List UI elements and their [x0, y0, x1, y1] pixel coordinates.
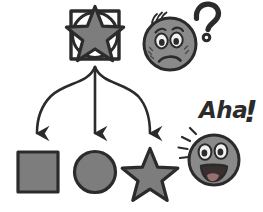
confused-face: [144, 13, 196, 71]
aha-label: Aha !: [199, 99, 263, 131]
aha-face: [179, 128, 240, 185]
question-mark: [196, 4, 218, 41]
question-mark-dot: [203, 34, 210, 41]
composite-abstract-shape: [66, 7, 123, 61]
aha-label-exclamation: !: [244, 97, 258, 127]
result-shapes-row: [18, 149, 178, 201]
circle-shape: [75, 152, 116, 193]
star-shape: [122, 149, 178, 201]
arrow-to-star: [95, 67, 150, 133]
illustration-canvas: Aha !: [0, 0, 263, 212]
arrow-group: [37, 67, 150, 133]
aha-label-word: Aha: [199, 99, 247, 122]
arrow-to-square: [37, 67, 95, 133]
square-shape: [18, 152, 58, 192]
confused-face-head: [144, 18, 196, 70]
composite-star-filled: [66, 7, 123, 61]
question-mark-hook: [196, 4, 218, 29]
